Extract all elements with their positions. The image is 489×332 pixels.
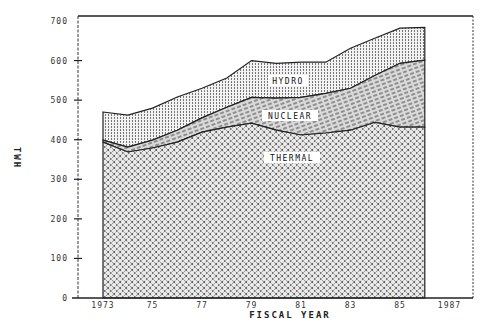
y-tick-label: 300 bbox=[51, 175, 68, 184]
area-layers bbox=[103, 27, 425, 298]
label-nuclear: NUCLEAR bbox=[268, 112, 312, 121]
y-tick-label: 700 bbox=[51, 17, 68, 26]
stacked-area-chart: 0100200300400500600700 TWH 1973757779818… bbox=[0, 0, 489, 332]
y-tick-label: 500 bbox=[51, 96, 68, 105]
x-ticks: 19737577798183851987 bbox=[91, 301, 461, 310]
y-tick-label: 0 bbox=[62, 294, 68, 303]
label-thermal: THERMAL bbox=[270, 154, 314, 163]
x-tick-label: 77 bbox=[196, 301, 208, 310]
y-axis: 0100200300400500600700 TWH bbox=[12, 16, 82, 303]
x-tick-label: 1987 bbox=[438, 301, 461, 310]
x-tick-label: 79 bbox=[246, 301, 258, 310]
area-thermal bbox=[103, 122, 425, 298]
y-tick-label: 600 bbox=[51, 57, 68, 66]
x-axis: 19737577798183851987 FISCAL YEAR bbox=[72, 298, 473, 320]
y-ticks: 0100200300400500600700 bbox=[51, 17, 82, 303]
y-tick-label: 100 bbox=[51, 254, 68, 263]
x-tick-label: 81 bbox=[295, 301, 307, 310]
x-tick-label: 83 bbox=[345, 301, 357, 310]
x-axis-title: FISCAL YEAR bbox=[249, 310, 331, 320]
x-tick-label: 85 bbox=[394, 301, 406, 310]
y-tick-label: 400 bbox=[51, 136, 68, 145]
x-tick-label: 75 bbox=[147, 301, 159, 310]
y-axis-title: TWH bbox=[12, 147, 22, 169]
y-tick-label: 200 bbox=[51, 215, 68, 224]
label-hydro: HYDRO bbox=[272, 77, 304, 86]
x-tick-label: 1973 bbox=[91, 301, 114, 310]
